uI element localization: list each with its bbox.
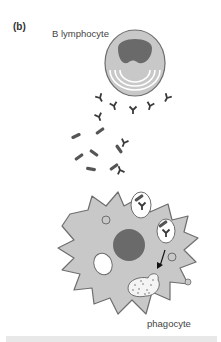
phagocyte-cell bbox=[58, 192, 198, 314]
nucleus-icon bbox=[118, 39, 152, 63]
diagram-canvas bbox=[0, 0, 221, 342]
nucleus-icon bbox=[113, 229, 145, 261]
bottom-bar bbox=[6, 336, 217, 342]
b-lymphocyte-cell bbox=[105, 30, 165, 96]
antibodies bbox=[95, 93, 172, 174]
phagocyte-label: phagocyte bbox=[147, 318, 191, 329]
bacteria bbox=[71, 127, 123, 172]
